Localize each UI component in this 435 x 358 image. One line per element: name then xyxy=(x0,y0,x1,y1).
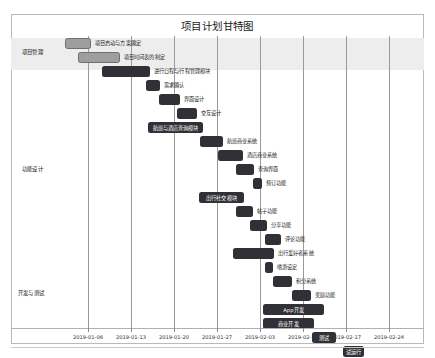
gantt-bar[interactable] xyxy=(177,108,197,119)
bottom-rule xyxy=(11,347,424,348)
gantt-bar-label: 查询界面 xyxy=(258,164,278,175)
gantt-bar[interactable] xyxy=(218,150,243,161)
gantt-bar-label: 航班商业系统 xyxy=(227,136,258,147)
category-label-1: 功能设计 xyxy=(22,165,43,173)
gantt-bar-label: 航班与酒店查询模块 xyxy=(148,122,203,133)
x-axis-tick-label-0: 2019-01-06 xyxy=(73,334,103,340)
gantt-bar[interactable] xyxy=(233,248,274,259)
x-axis-tick-3 xyxy=(217,328,218,332)
category-label-2: 开发与测试 xyxy=(18,289,44,297)
x-axis-tick-1 xyxy=(131,328,132,332)
gantt-bar[interactable] xyxy=(65,38,91,49)
gridline-3 xyxy=(217,36,218,328)
gantt-bar-label: 进行日程与行程管理模块 xyxy=(154,66,210,77)
gantt-bar[interactable] xyxy=(200,136,223,147)
x-axis-tick-label-2: 2019-01-20 xyxy=(159,334,189,340)
gantt-bar-label: 评论功能 xyxy=(285,234,305,245)
gantt-bar[interactable] xyxy=(102,66,150,77)
gantt-bar[interactable] xyxy=(146,80,160,91)
gantt-bar-label: 奖励功能 xyxy=(315,290,335,301)
gantt-bar[interactable] xyxy=(236,206,253,217)
gridline-6 xyxy=(346,36,347,328)
gantt-bar-label: 需求确认 xyxy=(164,80,184,91)
gantt-bar-label: 分享功能 xyxy=(271,220,291,231)
gridline-0 xyxy=(88,36,89,328)
gantt-bar[interactable] xyxy=(253,178,262,189)
gantt-bar-label: 酒店商业系统 xyxy=(247,150,278,161)
gantt-bar-label: 积分系统 xyxy=(296,276,316,287)
gantt-bar-label: 项目启动与方案确定 xyxy=(95,38,141,49)
gantt-bar-label: App开发 xyxy=(263,304,324,315)
gridline-7 xyxy=(389,36,390,328)
gantt-bar[interactable] xyxy=(292,290,311,301)
page-title: 项目计划甘特图 xyxy=(0,18,435,33)
x-axis-tick-0 xyxy=(88,328,89,332)
gantt-bar[interactable] xyxy=(265,234,281,245)
x-axis-tick-label-3: 2019-01-27 xyxy=(202,334,232,340)
gantt-bar[interactable] xyxy=(236,164,254,175)
x-axis-tick-6 xyxy=(346,328,347,332)
x-axis-tick-label-6: 2019-02-17 xyxy=(331,334,361,340)
gantt-bar[interactable] xyxy=(159,94,180,105)
gantt-bar-label: 交互设计 xyxy=(201,108,221,119)
gantt-bar[interactable]: 航班与酒店查询模块 xyxy=(148,122,203,133)
x-axis-tick-2 xyxy=(174,328,175,332)
gantt-bar[interactable]: App开发 xyxy=(263,304,324,315)
x-axis-tick-label-4: 2019-02-03 xyxy=(245,334,275,340)
x-axis-tick-5 xyxy=(303,328,304,332)
gantt-bar-label: 帖子功能 xyxy=(257,206,277,217)
gantt-chart-screenshot: 项目计划甘特图 项目管理功能设计开发与测试 项目启动与方案确定项目时间表的制定进… xyxy=(0,0,435,358)
x-axis-tick-4 xyxy=(260,328,261,332)
gantt-bar-label: 出行爱好者系统 xyxy=(278,248,314,259)
gantt-bar[interactable] xyxy=(273,276,292,287)
gridline-1 xyxy=(131,36,132,328)
gantt-bar-label: 出行社交模块 xyxy=(199,192,244,203)
gantt-bar-label: 嗜游设定 xyxy=(277,262,297,273)
gantt-bar-label: 项目时间表的制定 xyxy=(124,52,165,63)
x-axis-tick-label-7: 2019-02-24 xyxy=(374,334,404,340)
gantt-bar-label: 界面设计 xyxy=(184,94,204,105)
x-axis-tick-7 xyxy=(389,328,390,332)
gantt-bar[interactable]: 出行社交模块 xyxy=(199,192,244,203)
gantt-bar[interactable] xyxy=(78,52,120,63)
x-axis-tick-label-1: 2019-01-13 xyxy=(116,334,146,340)
category-label-0: 项目管理 xyxy=(22,48,43,56)
plot-area: 项目启动与方案确定项目时间表的制定进行日程与行程管理模块需求确认界面设计交互设计… xyxy=(60,36,424,328)
gantt-bar[interactable] xyxy=(250,220,267,231)
gantt-bar[interactable] xyxy=(265,262,273,273)
x-axis-tick-label-5: 2019-02-10 xyxy=(288,334,318,340)
gantt-bar-label: 预订功能 xyxy=(266,178,286,189)
